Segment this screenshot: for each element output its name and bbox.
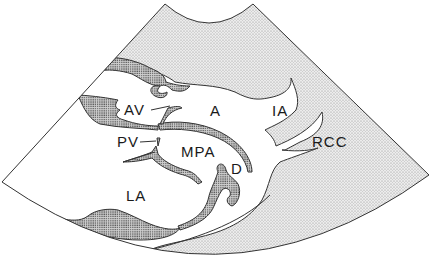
label-rcc: RCC xyxy=(312,133,348,150)
sector xyxy=(0,4,429,260)
label-la: LA xyxy=(126,187,146,204)
label-a: A xyxy=(210,102,221,119)
label-pv: PV xyxy=(117,133,139,150)
label-av: AV xyxy=(124,101,145,118)
label-mpa: MPA xyxy=(181,143,215,160)
label-d: D xyxy=(231,160,243,177)
echo-sector-diagram: AV A IA PV MPA RCC D LA xyxy=(0,0,431,268)
label-ia: IA xyxy=(272,102,288,119)
